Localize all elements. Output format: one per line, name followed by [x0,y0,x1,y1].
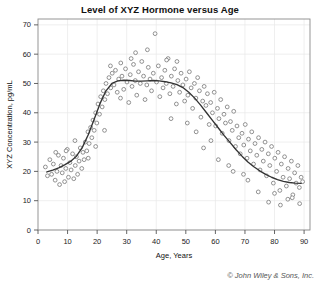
trend-curve [47,80,301,183]
svg-text:20: 20 [23,167,31,176]
data-points [43,32,304,207]
svg-text:50: 50 [182,237,190,246]
svg-text:40: 40 [23,108,31,117]
svg-text:XYZ Concentration, pg/mL: XYZ Concentration, pg/mL [5,80,14,168]
svg-text:30: 30 [123,237,131,246]
svg-text:30: 30 [23,138,31,147]
chart-figure: Level of XYZ Hormone versus Age 01020304… [0,0,320,285]
svg-text:40: 40 [152,237,160,246]
svg-text:10: 10 [23,196,31,205]
svg-text:0: 0 [36,237,40,246]
plot-frame [38,19,310,230]
svg-text:60: 60 [211,237,219,246]
svg-text:60: 60 [23,50,31,59]
x-axis-ticks: 0102030405060708090 [36,230,308,246]
svg-text:0: 0 [27,226,31,235]
svg-text:20: 20 [93,237,101,246]
scatter-plot: 0102030405060708090 010203040506070 Age,… [0,0,320,285]
gridlines [38,19,310,230]
svg-text:50: 50 [23,79,31,88]
y-axis-ticks: 010203040506070 [23,20,38,234]
svg-text:80: 80 [270,237,278,246]
svg-text:70: 70 [23,20,31,29]
svg-text:10: 10 [63,237,71,246]
copyright-notice: © John Wiley & Sons, Inc. [227,271,314,280]
svg-text:70: 70 [241,237,249,246]
svg-text:Age, Years: Age, Years [156,251,193,260]
svg-text:90: 90 [300,237,308,246]
